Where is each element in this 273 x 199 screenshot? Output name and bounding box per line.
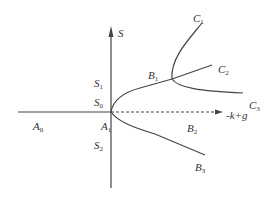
branch-b1: [111, 79, 172, 112]
s-axis-arrow-icon: [109, 26, 114, 37]
label-b2: B2: [187, 123, 197, 136]
label-a0: A0: [33, 121, 43, 134]
label-c1: C1: [193, 13, 204, 26]
label-s1: S1: [94, 78, 103, 91]
label-a1: A1: [101, 121, 111, 134]
label-c2: C2: [218, 64, 229, 77]
bifurcation-diagram: [0, 0, 273, 199]
label-c3: C3: [249, 100, 260, 113]
branch-c2: [172, 65, 212, 79]
branch-c3: [172, 79, 243, 93]
label-b3: B3: [195, 162, 205, 175]
label-b1: B1: [148, 70, 158, 83]
horizontal-arrow-icon: [215, 110, 223, 115]
label-s-axis: S: [118, 28, 124, 39]
label-horizontal-axis: -k+g: [226, 110, 247, 121]
label-s2: S2: [94, 140, 103, 153]
label-s0: S0: [94, 97, 103, 110]
